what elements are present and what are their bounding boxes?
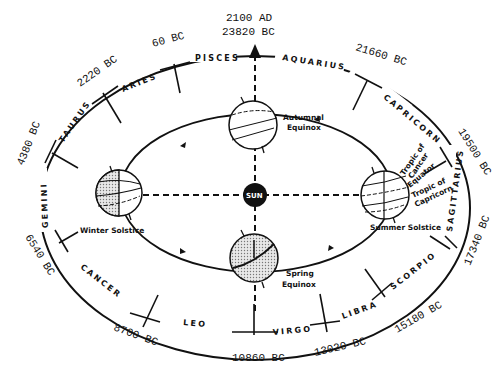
date-top-line2: 23820 BC — [222, 26, 275, 38]
date-top-line1: 2100 AD — [226, 12, 273, 24]
orbit-arrow-icon — [180, 142, 186, 148]
globe-spring-equinox — [230, 230, 278, 288]
winter-solstice-label: Winter Solstice — [80, 226, 144, 235]
up-arrow-icon — [249, 44, 261, 58]
zodiac-gemini: GEMINI — [39, 182, 50, 228]
globe-autumnal-equinox — [229, 97, 277, 153]
orbit-arrow-icon — [180, 248, 186, 254]
spring-label-line1: Spring — [286, 269, 314, 278]
date-10860: 10860 BC — [232, 352, 285, 364]
date-21660: 21660 BC — [354, 41, 408, 68]
summer-solstice-label: Summer Solstice — [370, 223, 441, 232]
precession-diagram: PISCES AQUARIUS CAPRICORN SAGITTARIUS SC… — [0, 0, 501, 375]
zodiac-capricorn: CAPRICORN — [382, 93, 443, 146]
orbit-arrow-icon — [328, 245, 334, 251]
date-6540: 6540 BC — [22, 232, 57, 278]
zodiac-pisces: PISCES — [195, 54, 240, 63]
date-60: 60 BC — [151, 30, 186, 50]
autumnal-label-line1: Autumnal — [283, 113, 324, 122]
date-13020: 13020 BC — [313, 335, 368, 359]
date-17340: 17340 BC — [462, 213, 493, 267]
autumnal-label-line2: Equinox — [287, 123, 321, 132]
globe-winter-solstice — [96, 166, 142, 220]
spring-label-line2: Equinox — [282, 280, 316, 289]
zodiac-scorpio: SCORPIO — [389, 250, 438, 291]
date-15180: 15180 BC — [393, 299, 445, 336]
zodiac-leo: LEO — [183, 318, 208, 329]
date-8700: 8700 BC — [112, 322, 160, 349]
date-4380: 4380 BC — [15, 119, 44, 167]
sun-label: SUN — [246, 192, 263, 200]
